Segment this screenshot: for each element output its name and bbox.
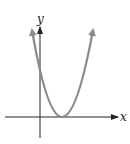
parabola-curve <box>32 30 62 117</box>
parabola-graph: y x <box>0 0 130 144</box>
parabola-curve-right <box>62 30 93 117</box>
graph-canvas: y x <box>0 0 130 144</box>
y-axis-label: y <box>36 12 44 26</box>
x-axis-label: x <box>120 110 127 124</box>
